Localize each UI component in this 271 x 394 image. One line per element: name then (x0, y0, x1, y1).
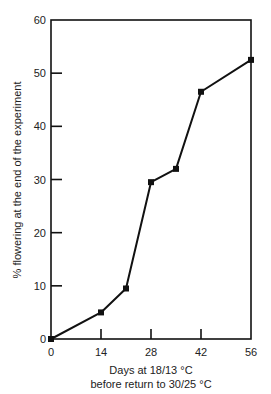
y-tick-label: 0 (40, 333, 46, 345)
y-tick-label: 10 (34, 280, 46, 292)
y-tick-label: 50 (34, 67, 46, 79)
x-axis-label-line2: before return to 30/25 °C (90, 378, 211, 390)
y-axis-ticks: 0102030405060 (34, 14, 62, 345)
data-series (48, 57, 254, 342)
data-point-marker (123, 285, 129, 291)
data-point-marker (48, 336, 54, 342)
x-tick-label: 42 (195, 346, 207, 358)
y-tick-label: 60 (34, 14, 46, 26)
data-point-marker (173, 166, 179, 172)
y-tick-label: 40 (34, 120, 46, 132)
series-line (51, 60, 251, 339)
x-axis-ticks: 014284256 (48, 329, 257, 358)
data-point-marker (198, 89, 204, 95)
line-chart: 0102030405060 014284256 % flowering at t… (0, 0, 271, 394)
data-point-marker (98, 309, 104, 315)
x-tick-label: 0 (48, 346, 54, 358)
x-axis-label: Days at 18/13 °C (109, 364, 192, 376)
x-tick-label: 28 (145, 346, 157, 358)
data-point-marker (248, 57, 254, 63)
y-tick-label: 20 (34, 227, 46, 239)
data-point-marker (148, 179, 154, 185)
x-tick-label: 56 (245, 346, 257, 358)
x-tick-label: 14 (95, 346, 107, 358)
y-axis-label: % flowering at the end of the experiment (11, 82, 23, 279)
y-tick-label: 30 (34, 174, 46, 186)
